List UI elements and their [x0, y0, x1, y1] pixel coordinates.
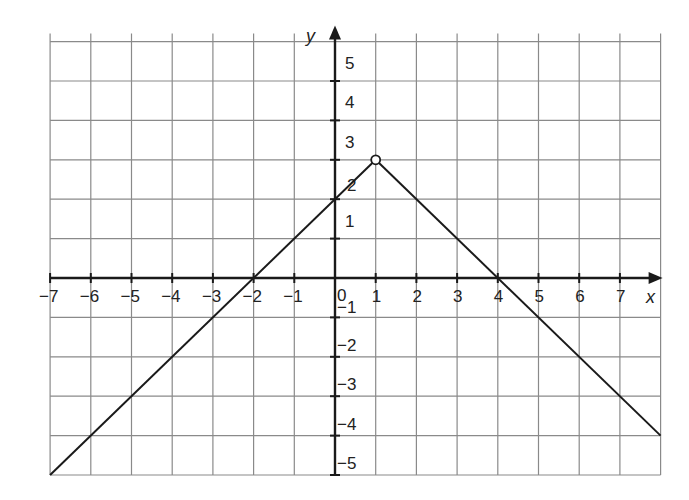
x-tick-label: −3 [202, 287, 221, 306]
x-tick-label: 2 [412, 287, 421, 306]
y-tick-label: 1 [345, 212, 354, 231]
x-tick-label: −6 [80, 287, 99, 306]
y-tick-label: 5 [345, 54, 354, 73]
coordinate-plane-chart: −7−6−5−4−3−2−11234567 −5−4−3−2−112345 x … [0, 0, 689, 500]
x-tick-label: −4 [161, 287, 180, 306]
y-tick-label: −4 [337, 415, 356, 434]
x-tick-label: 6 [575, 287, 584, 306]
x-tick-label: 3 [453, 287, 462, 306]
y-tick-labels: −5−4−3−2−112345 [337, 54, 356, 473]
grid-lines [50, 34, 661, 475]
y-tick-label: 3 [345, 133, 354, 152]
x-tick-label: −2 [243, 287, 262, 306]
x-axis-label: x [645, 287, 656, 307]
y-tick-label: 4 [345, 93, 354, 112]
origin-label: 0 [337, 286, 346, 305]
x-tick-label: 1 [372, 287, 381, 306]
y-axis-arrow-icon [329, 26, 341, 40]
y-tick-label: −2 [337, 336, 356, 355]
x-tick-label: −1 [283, 287, 302, 306]
x-tick-label: −5 [121, 287, 140, 306]
y-tick-label: −5 [337, 454, 356, 473]
x-tick-label: 4 [494, 287, 503, 306]
open-circle-point [371, 155, 380, 164]
x-tick-label: −7 [39, 287, 58, 306]
x-tick-label: 5 [535, 287, 544, 306]
x-tick-labels: −7−6−5−4−3−2−11234567 [39, 287, 625, 306]
axes [50, 26, 663, 475]
y-tick-label: −3 [337, 375, 356, 394]
x-tick-label: 7 [616, 287, 625, 306]
y-axis-label: y [304, 26, 316, 46]
